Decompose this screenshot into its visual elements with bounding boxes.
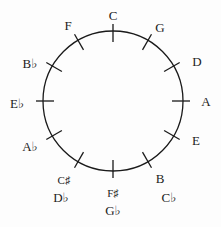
key-label-c-flat: C♭	[162, 190, 177, 205]
key-label-a-flat: A♭	[22, 139, 38, 154]
key-label-e: E	[192, 133, 200, 148]
key-label-a: A	[201, 94, 211, 109]
key-label-b: B	[156, 171, 165, 186]
key-label-c-sharp: C♯	[58, 174, 71, 186]
key-label-d: D	[192, 54, 201, 69]
key-label-g-flat: G♭	[105, 203, 121, 218]
fifths-circle	[43, 31, 183, 171]
key-label-c: C	[109, 8, 118, 23]
key-label-b-flat: B♭	[23, 56, 38, 71]
key-label-d-flat: D♭	[53, 190, 69, 205]
key-label-f: F	[64, 18, 71, 33]
key-label-f-sharp: F♯	[107, 187, 119, 199]
tick-marks	[36, 24, 190, 178]
key-label-g: G	[155, 20, 164, 35]
circle-of-fifths-diagram: C G D A E B C♭ F♯ G♭ C♯ D♭ A♭ E♭ B♭ F	[0, 0, 221, 227]
key-labels: C G D A E B C♭ F♯ G♭ C♯ D♭ A♭ E♭ B♭ F	[10, 8, 211, 218]
key-label-e-flat: E♭	[10, 96, 24, 111]
